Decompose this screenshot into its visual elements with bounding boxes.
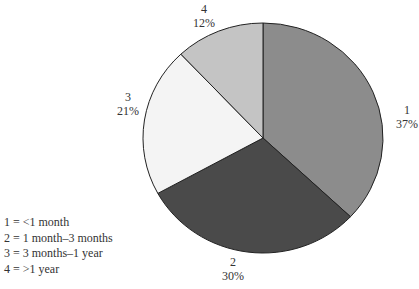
legend-item: 2 = 1 month–3 months <box>4 231 113 247</box>
legend-item: 1 = <1 month <box>4 215 113 231</box>
slice-label-1: 1 37% <box>396 103 418 131</box>
slice-id: 4 <box>193 2 215 16</box>
slice-percent: 12% <box>193 16 215 30</box>
slice-id: 2 <box>222 255 244 269</box>
slice-percent: 21% <box>117 104 139 118</box>
legend-item: 4 = >1 year <box>4 262 113 278</box>
slice-label-2: 2 30% <box>222 255 244 283</box>
slice-id: 1 <box>396 103 418 117</box>
slice-label-4: 4 12% <box>193 2 215 30</box>
legend: 1 = <1 month 2 = 1 month–3 months 3 = 3 … <box>4 215 113 277</box>
legend-item: 3 = 3 months–1 year <box>4 246 113 262</box>
slice-id: 3 <box>117 90 139 104</box>
slice-percent: 30% <box>222 269 244 283</box>
slice-label-3: 3 21% <box>117 90 139 118</box>
slice-percent: 37% <box>396 117 418 131</box>
